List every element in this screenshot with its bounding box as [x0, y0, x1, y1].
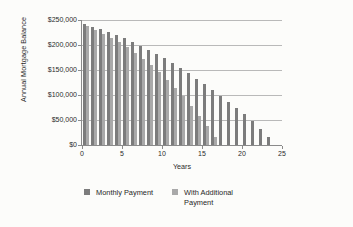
bar	[243, 114, 246, 145]
legend-swatch-icon	[172, 189, 178, 195]
bar	[94, 30, 97, 146]
x-axis-tick-label: 10	[150, 150, 174, 157]
gridline	[82, 145, 282, 146]
bar	[158, 72, 161, 145]
bar	[182, 96, 185, 145]
bar	[206, 126, 209, 145]
bar	[198, 116, 201, 146]
bar	[219, 96, 222, 146]
x-axis-tick-label: 20	[230, 150, 254, 157]
x-axis-tick-label: 25	[270, 150, 294, 157]
legend-entry[interactable]: Monthly Payment	[84, 188, 153, 198]
bar	[259, 129, 262, 146]
bar	[267, 137, 270, 146]
bar	[251, 121, 254, 145]
bar	[86, 26, 89, 145]
bar	[166, 80, 169, 146]
legend-label: Monthly Payment	[96, 188, 153, 198]
chart-legend: Monthly PaymentWith Additional Payment	[84, 188, 242, 207]
x-axis-tick-mark	[122, 146, 123, 149]
gridline	[82, 20, 282, 21]
x-axis-tick-mark	[242, 146, 243, 149]
x-axis-tick-mark	[282, 146, 283, 149]
legend-entry[interactable]: With Additional Payment	[172, 188, 242, 207]
bar	[214, 137, 217, 145]
bar	[142, 59, 145, 146]
x-axis-tick-mark	[162, 146, 163, 149]
x-axis-tick-label: 5	[110, 150, 134, 157]
bar	[227, 102, 230, 146]
mortgage-balance-chart: Annual Mortgage Balance $0$50,000$100,00…	[0, 0, 353, 227]
bar	[134, 53, 137, 146]
x-axis-tick-mark	[82, 146, 83, 149]
y-axis-tick-label: $100,000	[17, 91, 77, 98]
y-axis-tick-label: $200,000	[17, 41, 77, 48]
legend-label: With Additional Payment	[184, 188, 242, 207]
bar	[150, 65, 153, 145]
bar	[190, 106, 193, 146]
bar	[126, 47, 129, 145]
y-axis-tick-label: $0	[17, 141, 77, 148]
bar	[174, 88, 177, 146]
x-axis-tick-mark	[202, 146, 203, 149]
bar	[102, 34, 105, 146]
x-axis-title: Years	[82, 162, 282, 171]
x-axis-tick-label: 15	[190, 150, 214, 157]
y-axis-tick-label: $250,000	[17, 16, 77, 23]
legend-swatch-icon	[84, 189, 90, 195]
y-axis-tick-label: $50,000	[17, 116, 77, 123]
bar	[118, 42, 121, 145]
bar	[110, 38, 113, 146]
y-axis-tick-label: $150,000	[17, 66, 77, 73]
bar	[235, 108, 238, 146]
x-axis-tick-label: 0	[70, 150, 94, 157]
plot-area	[82, 20, 282, 145]
